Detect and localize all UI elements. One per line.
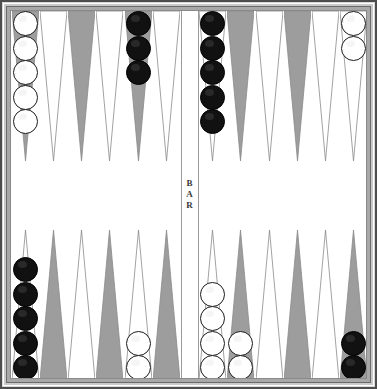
checker-gloss — [205, 15, 214, 22]
checker-gloss — [205, 40, 214, 47]
checker-white[interactable] — [200, 355, 225, 379]
checker-white[interactable] — [126, 355, 151, 379]
checker-gloss — [18, 359, 27, 366]
checker-white[interactable] — [126, 331, 151, 356]
bar-char-r: R — [186, 200, 193, 211]
backgammon-board: B A R — [0, 0, 377, 389]
point-15[interactable] — [68, 230, 95, 379]
checker-gloss — [205, 359, 214, 366]
checker-gloss — [18, 286, 27, 293]
checker-gloss — [205, 335, 214, 342]
checker-white[interactable] — [341, 36, 366, 61]
checker-gloss — [131, 40, 140, 47]
checker-black[interactable] — [126, 60, 151, 85]
checker-gloss — [18, 335, 27, 342]
point-21[interactable] — [256, 230, 283, 379]
checker-gloss — [233, 359, 242, 366]
checker-gloss — [18, 40, 27, 47]
checker-white[interactable] — [200, 282, 225, 307]
checker-white[interactable] — [200, 306, 225, 331]
point-2[interactable] — [40, 11, 67, 161]
checker-gloss — [205, 113, 214, 120]
checker-gloss — [346, 359, 355, 366]
bar-char-a: A — [186, 189, 193, 200]
checker-black[interactable] — [200, 109, 225, 134]
checker-gloss — [131, 335, 140, 342]
point-4[interactable] — [96, 11, 123, 161]
checker-black[interactable] — [13, 306, 38, 331]
checker-black[interactable] — [200, 11, 225, 36]
checker-white[interactable] — [228, 331, 253, 356]
playfield: B A R — [10, 10, 367, 379]
bar-char-b: B — [186, 178, 193, 189]
point-8[interactable] — [227, 11, 254, 161]
checker-white[interactable] — [13, 11, 38, 36]
checker-white[interactable] — [13, 85, 38, 110]
checker-gloss — [18, 261, 27, 268]
checker-gloss — [346, 335, 355, 342]
checker-black[interactable] — [13, 355, 38, 379]
checker-gloss — [18, 15, 27, 22]
checker-gloss — [205, 64, 214, 71]
bar-label: B A R — [186, 178, 193, 211]
checker-gloss — [131, 15, 140, 22]
checker-gloss — [346, 40, 355, 47]
point-9[interactable] — [256, 11, 283, 161]
checker-white[interactable] — [13, 109, 38, 134]
checker-black[interactable] — [126, 11, 151, 36]
checker-black[interactable] — [200, 60, 225, 85]
checker-gloss — [18, 113, 27, 120]
checker-white[interactable] — [200, 331, 225, 356]
checker-gloss — [205, 286, 214, 293]
checker-black[interactable] — [13, 257, 38, 282]
checker-gloss — [205, 89, 214, 96]
checker-gloss — [205, 310, 214, 317]
point-3[interactable] — [68, 11, 95, 161]
checker-black[interactable] — [13, 282, 38, 307]
checker-white[interactable] — [13, 60, 38, 85]
checker-black[interactable] — [200, 85, 225, 110]
point-22[interactable] — [284, 230, 311, 379]
checker-gloss — [233, 335, 242, 342]
checker-black[interactable] — [200, 36, 225, 61]
checker-white[interactable] — [228, 355, 253, 379]
point-14[interactable] — [40, 230, 67, 379]
point-16[interactable] — [96, 230, 123, 379]
checker-black[interactable] — [126, 36, 151, 61]
point-23[interactable] — [312, 230, 339, 379]
point-6[interactable] — [153, 11, 180, 161]
center-bar[interactable]: B A R — [181, 11, 199, 378]
checker-gloss — [18, 64, 27, 71]
checker-black[interactable] — [13, 331, 38, 356]
point-18[interactable] — [153, 230, 180, 379]
point-11[interactable] — [312, 11, 339, 161]
point-10[interactable] — [284, 11, 311, 161]
checker-gloss — [18, 310, 27, 317]
checker-white[interactable] — [13, 36, 38, 61]
checker-gloss — [346, 15, 355, 22]
checker-gloss — [131, 64, 140, 71]
checker-black[interactable] — [341, 355, 366, 379]
checker-gloss — [18, 89, 27, 96]
checker-gloss — [131, 359, 140, 366]
checker-black[interactable] — [341, 331, 366, 356]
